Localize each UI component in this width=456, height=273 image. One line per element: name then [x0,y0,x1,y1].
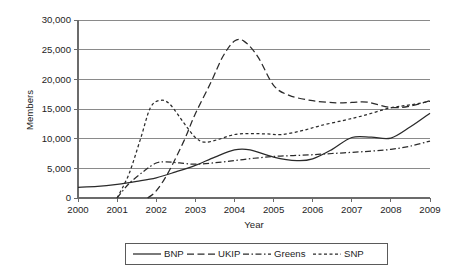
y-axis-tick-label: 15,000 [42,103,71,114]
y-axis-tick-label: 20,000 [42,74,71,85]
y-axis-tick-label: 30,000 [42,14,71,25]
legend-label-bnp[interactable]: BNP [164,248,184,259]
x-axis-tick-label: 2003 [185,204,206,215]
legend-label-ukip[interactable]: UKIP [218,248,240,259]
y-axis-tick-label: 0 [66,192,71,203]
y-axis-tick-label: 5,000 [47,163,71,174]
x-axis-tick-label: 2008 [380,204,401,215]
x-axis-tick-label: 2000 [67,204,88,215]
x-axis-tick-label: 2004 [224,204,246,215]
x-axis-tick-label: 2007 [341,204,362,215]
chart-container: 05,00010,00015,00020,00025,00030,000 200… [0,0,456,273]
x-axis-tick-label: 2005 [263,204,284,215]
x-axis-tick-label: 2001 [106,204,127,215]
x-axis-tick-label: 2006 [302,204,323,215]
legend-label-greens[interactable]: Greens [274,248,306,259]
x-axis-title: Year [244,219,264,230]
members-by-party-line-chart: 05,00010,00015,00020,00025,00030,000 200… [0,0,456,273]
x-axis-tick-label: 2009 [419,204,440,215]
y-axis-tick-label: 25,000 [42,44,71,55]
y-axis-title: Members [24,90,35,130]
x-axis-tick-label: 2002 [146,204,167,215]
legend-label-snp[interactable]: SNP [344,248,364,259]
y-axis-tick-label: 10,000 [42,133,71,144]
